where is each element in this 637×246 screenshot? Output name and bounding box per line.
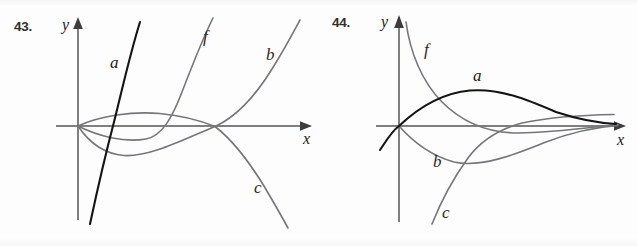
x-axis-label-43: x xyxy=(303,130,310,148)
page-canvas: 43. y x a f b c 44. xyxy=(0,0,637,246)
y-axis-arrowhead-43 xyxy=(73,17,83,29)
curve-label-f-44: f xyxy=(424,40,429,60)
y-axis-label-44: y xyxy=(381,13,388,31)
curve-label-b-44: b xyxy=(433,152,442,172)
y-axis-arrowhead-44 xyxy=(394,15,404,28)
curve-label-c-44: c xyxy=(442,203,450,223)
curve-label-a-43: a xyxy=(110,53,119,73)
curve-label-f-43: f xyxy=(203,27,208,47)
curve-label-a-44: a xyxy=(473,66,482,86)
exercise-panel-43: 43. y x a f b c xyxy=(0,0,318,246)
curve-f-43 xyxy=(78,18,213,140)
exercise-panel-44: 44. y x f a b c xyxy=(318,0,636,246)
x-axis-label-44: x xyxy=(617,131,624,149)
y-axis-label-43: y xyxy=(62,16,69,34)
curve-f-44 xyxy=(406,22,618,133)
curve-label-b-43: b xyxy=(266,45,275,65)
curve-c-43 xyxy=(78,113,288,228)
curve-c-44 xyxy=(432,115,614,225)
curve-b-44 xyxy=(399,126,618,164)
curve-label-c-43: c xyxy=(254,178,262,198)
graph-43 xyxy=(0,0,318,246)
graph-44 xyxy=(318,0,636,246)
